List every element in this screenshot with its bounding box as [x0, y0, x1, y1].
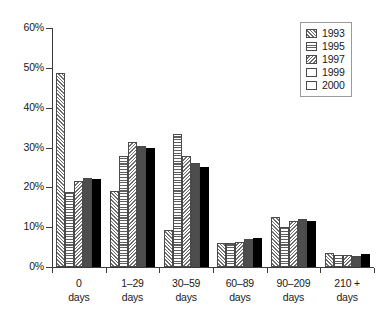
- bar-1995-2[interactable]: [173, 134, 182, 267]
- y-axis-line: [52, 28, 53, 268]
- x-axis-tick: [374, 268, 375, 273]
- x-axis-category-label: 30–59days: [159, 276, 213, 304]
- category-label-line1: 0: [52, 276, 106, 290]
- bar-1993-1[interactable]: [110, 191, 119, 267]
- bar-1995-3[interactable]: [226, 243, 235, 267]
- legend-swatch-icon: [306, 55, 317, 64]
- x-axis-tick: [159, 268, 160, 273]
- bar-2000-3[interactable]: [253, 238, 262, 267]
- legend-swatch-icon: [306, 81, 317, 90]
- bar-1999-0[interactable]: [83, 178, 92, 267]
- legend-swatch-icon: [306, 29, 317, 38]
- bar-chart: 0%10%20%30%40%50%60% 0days1–29days30–59d…: [0, 0, 388, 313]
- bar-1993-0[interactable]: [56, 73, 65, 267]
- bar-2000-1[interactable]: [146, 148, 155, 268]
- bar-2000-2[interactable]: [200, 167, 209, 267]
- category-label-line2: days: [267, 290, 321, 304]
- legend-item-1997[interactable]: 1997: [306, 53, 345, 66]
- bar-1995-4[interactable]: [280, 227, 289, 267]
- bar-1995-1[interactable]: [119, 156, 128, 268]
- bar-1997-2[interactable]: [182, 156, 191, 268]
- legend: 19931995199719992000: [300, 22, 352, 97]
- legend-swatch-icon: [306, 68, 317, 77]
- bar-1995-0[interactable]: [65, 192, 74, 267]
- category-label-line2: days: [213, 290, 267, 304]
- bar-2000-5[interactable]: [361, 254, 370, 267]
- bar-2000-4[interactable]: [307, 221, 316, 267]
- bar-group: [217, 28, 262, 267]
- category-label-line1: 1–29: [106, 276, 160, 290]
- x-axis-tick: [320, 268, 321, 273]
- bar-group: [56, 28, 101, 267]
- bar-1999-1[interactable]: [137, 146, 146, 268]
- legend-item-1993[interactable]: 1993: [306, 27, 345, 40]
- legend-item-1995[interactable]: 1995: [306, 40, 345, 53]
- bar-1993-2[interactable]: [164, 230, 173, 267]
- category-label-line2: days: [52, 290, 106, 304]
- bar-1999-2[interactable]: [191, 163, 200, 267]
- bar-1997-0[interactable]: [74, 181, 83, 267]
- y-axis-tick-label: 0%: [29, 261, 44, 272]
- bar-1999-5[interactable]: [352, 256, 361, 267]
- bar-1995-5[interactable]: [334, 255, 343, 267]
- y-axis-tick-label: 60%: [24, 22, 44, 33]
- legend-item-label: 2000: [322, 80, 345, 91]
- legend-item-label: 1995: [322, 41, 345, 52]
- y-axis-tick: [46, 68, 52, 69]
- bar-2000-0[interactable]: [92, 179, 101, 267]
- legend-item-1999[interactable]: 1999: [306, 66, 345, 79]
- x-axis-category-label: 90–209days: [267, 276, 321, 304]
- category-label-line1: 30–59: [159, 276, 213, 290]
- legend-item-label: 1993: [322, 28, 345, 39]
- bar-1999-3[interactable]: [244, 239, 253, 267]
- category-label-line1: 60–89: [213, 276, 267, 290]
- legend-item-label: 1999: [322, 67, 345, 78]
- y-axis-tick: [46, 148, 52, 149]
- x-axis-category-label: 210 +days: [320, 276, 374, 304]
- bar-1997-4[interactable]: [289, 221, 298, 267]
- x-axis-category-label: 1–29days: [106, 276, 160, 304]
- y-axis-tick: [46, 227, 52, 228]
- category-label-line2: days: [159, 290, 213, 304]
- y-axis-tick-label: 40%: [24, 102, 44, 113]
- bar-1997-1[interactable]: [128, 142, 137, 268]
- y-axis-tick: [46, 28, 52, 29]
- bar-1997-3[interactable]: [235, 242, 244, 267]
- legend-item-2000[interactable]: 2000: [306, 79, 345, 92]
- category-label-line1: 210 +: [320, 276, 374, 290]
- x-axis-tick: [267, 268, 268, 273]
- bar-group: [164, 28, 209, 267]
- bar-1993-5[interactable]: [325, 253, 334, 267]
- bar-group: [110, 28, 155, 267]
- x-axis-tick: [106, 268, 107, 273]
- y-axis-tick: [46, 108, 52, 109]
- y-axis-tick-label: 30%: [24, 142, 44, 153]
- y-axis-tick: [46, 187, 52, 188]
- category-label-line1: 90–209: [267, 276, 321, 290]
- y-axis-tick-label: 10%: [24, 221, 44, 232]
- y-axis-tick-label: 20%: [24, 181, 44, 192]
- bar-1999-4[interactable]: [298, 219, 307, 267]
- category-label-line2: days: [106, 290, 160, 304]
- legend-swatch-icon: [306, 42, 317, 51]
- legend-item-label: 1997: [322, 54, 345, 65]
- category-label-line2: days: [320, 290, 374, 304]
- x-axis-tick: [213, 268, 214, 273]
- bar-1997-5[interactable]: [343, 255, 352, 267]
- x-axis-category-label: 60–89days: [213, 276, 267, 304]
- x-axis-category-label: 0days: [52, 276, 106, 304]
- bar-1993-4[interactable]: [271, 217, 280, 267]
- x-axis-tick: [52, 268, 53, 273]
- bar-1993-3[interactable]: [217, 243, 226, 267]
- y-axis-tick-label: 50%: [24, 62, 44, 73]
